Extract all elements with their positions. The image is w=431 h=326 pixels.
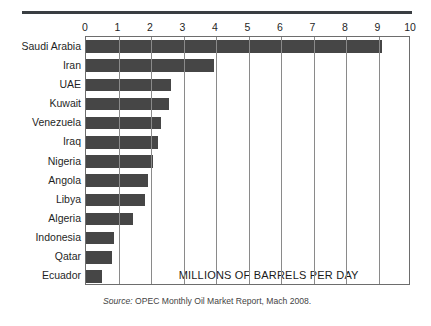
gridline-4 — [216, 37, 217, 284]
bar-series — [86, 37, 409, 284]
bar-saudi-arabia[interactable] — [86, 40, 382, 53]
category-label-kuwait: Kuwait — [49, 97, 81, 109]
gridline-5 — [249, 37, 250, 284]
source-caption: Source: OPEC Monthly Oil Market Report, … — [103, 296, 311, 307]
bar-algeria[interactable] — [86, 213, 133, 226]
bar-uae[interactable] — [86, 79, 171, 92]
category-label-indonesia: Indonesia — [35, 231, 81, 243]
x-tick-label-0: 0 — [82, 21, 88, 34]
top-rule — [22, 11, 412, 14]
x-tick-label-9: 9 — [375, 21, 381, 34]
category-label-venezuela: Venezuela — [32, 116, 81, 128]
x-tick-label-2: 2 — [147, 21, 153, 34]
y-axis-category-labels: Saudi ArabiaIranUAEKuwaitVenezuelaIraqNi… — [0, 36, 81, 285]
x-tick-label-6: 6 — [277, 21, 283, 34]
category-label-nigeria: Nigeria — [48, 155, 81, 167]
gridline-2 — [151, 37, 152, 284]
category-label-ecuador: Ecuador — [42, 269, 81, 281]
plot-area: MILLIONS OF BARRELS PER DAY — [85, 36, 410, 285]
gridline-1 — [119, 37, 120, 284]
x-axis-tick-labels: 012345678910 — [85, 21, 410, 34]
x-tick-label-8: 8 — [342, 21, 348, 34]
category-label-angola: Angola — [48, 174, 81, 186]
gridline-3 — [184, 37, 185, 284]
source-label: Source: — [103, 296, 133, 306]
bar-angola[interactable] — [86, 174, 148, 187]
bar-libya[interactable] — [86, 194, 145, 207]
x-tick-label-5: 5 — [245, 21, 251, 34]
category-label-libya: Libya — [56, 193, 81, 205]
category-label-algeria: Algeria — [48, 212, 81, 224]
bar-venezuela[interactable] — [86, 117, 161, 130]
bar-qatar[interactable] — [86, 251, 112, 264]
x-tick-label-7: 7 — [310, 21, 316, 34]
figure: 012345678910 MILLIONS OF BARRELS PER DAY… — [0, 0, 431, 326]
category-label-saudi-arabia: Saudi Arabia — [21, 40, 81, 52]
gridline-8 — [346, 37, 347, 284]
x-tick-label-10: 10 — [404, 21, 416, 34]
x-tick-label-3: 3 — [180, 21, 186, 34]
x-tick-label-4: 4 — [212, 21, 218, 34]
category-label-iraq: Iraq — [63, 135, 81, 147]
bar-ecuador[interactable] — [86, 270, 102, 283]
bar-indonesia[interactable] — [86, 232, 114, 245]
bar-iraq[interactable] — [86, 136, 158, 149]
category-label-uae: UAE — [59, 78, 81, 90]
source-text: OPEC Monthly Oil Market Report, Mach 200… — [133, 296, 312, 306]
gridline-9 — [379, 37, 380, 284]
bar-kuwait[interactable] — [86, 98, 169, 111]
gridline-6 — [281, 37, 282, 284]
category-label-iran: Iran — [63, 59, 81, 71]
units-annotation: MILLIONS OF BARRELS PER DAY — [179, 269, 359, 281]
x-tick-label-1: 1 — [115, 21, 121, 34]
gridline-7 — [314, 37, 315, 284]
category-label-qatar: Qatar — [55, 250, 81, 262]
